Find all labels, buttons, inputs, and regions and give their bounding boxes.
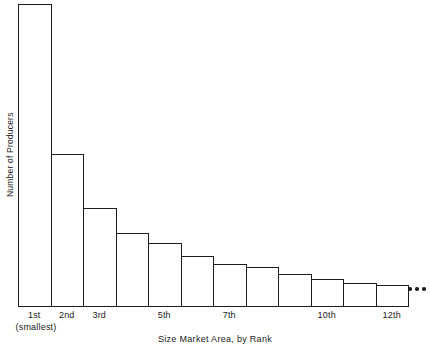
bar-2nd [51,154,85,307]
bar-6th [181,256,215,308]
x-axis-smallest-note: (smallest) [6,322,66,332]
bar-series [18,4,408,307]
bar-4th [116,233,150,307]
bar-10th [311,279,345,307]
x-tick-7th: 7th [204,310,254,320]
bar-1st [18,4,52,307]
x-tick-12th: 12th [367,310,417,320]
bar-8th [246,267,280,307]
ellipsis-dot [422,287,426,291]
continuation-ellipsis-icon [408,287,428,295]
plot-area [18,4,408,307]
chart-figure: Number of Producers 1st2nd3rd5th7th10th1… [0,0,430,350]
bar-7th [213,264,247,307]
y-axis-title: Number of Producers [2,90,18,220]
bar-12th [376,285,410,307]
bar-5th [148,243,182,307]
x-axis-title: Size Market Area, by Rank [0,334,430,344]
bar-3rd [83,208,117,307]
ellipsis-dot [415,287,419,291]
x-tick-5th: 5th [139,310,189,320]
x-tick-3rd: 3rd [74,310,124,320]
x-tick-10th: 10th [302,310,352,320]
bar-9th [278,274,312,307]
bar-11th [343,283,377,307]
